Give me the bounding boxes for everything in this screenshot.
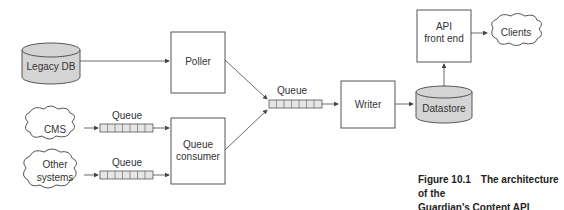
other-systems-node: Other systems xyxy=(23,149,76,188)
api-front-end-label-line1: API xyxy=(436,21,452,32)
other-systems-label-line2: systems xyxy=(37,172,74,183)
other-queue xyxy=(100,171,153,179)
queue-consumer-label-line2: consumer xyxy=(176,151,221,162)
poller-node: Poller xyxy=(171,32,225,93)
writer-label: Writer xyxy=(355,99,382,110)
main-queue-label: Queue xyxy=(277,85,307,96)
api-front-end-node: API front end xyxy=(417,10,471,62)
cms-node: CMS xyxy=(25,106,74,139)
clients-node: Clients xyxy=(492,14,542,46)
main-queue xyxy=(269,100,322,108)
cms-label: CMS xyxy=(44,124,67,135)
cms-queue xyxy=(100,124,153,132)
api-front-end-label-line2: front end xyxy=(424,33,463,44)
queue-consumer-label-line1: Queue xyxy=(183,139,213,150)
clients-label: Clients xyxy=(501,27,532,38)
queue-consumer-node: Queue consumer xyxy=(171,118,225,184)
poller-label: Poller xyxy=(185,56,211,67)
other-queue-label: Queue xyxy=(112,157,142,168)
other-systems-label-line1: Other xyxy=(42,159,68,170)
legacy-db-node: Legacy DB xyxy=(22,43,80,84)
legacy-db-label: Legacy DB xyxy=(27,61,76,72)
cms-queue-label: Queue xyxy=(112,110,142,121)
writer-node: Writer xyxy=(341,81,395,128)
datastore-node: Datastore xyxy=(416,86,472,123)
figure-number: Figure 10.1 xyxy=(418,174,471,185)
figure-caption: Figure 10.1The architecture of the Guard… xyxy=(418,173,564,210)
datastore-label: Datastore xyxy=(422,103,466,114)
caption-line2: Guardian's Content API xyxy=(418,201,564,210)
